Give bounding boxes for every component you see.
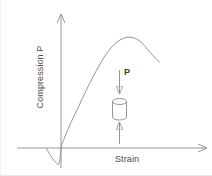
x-axis-label: Strain — [115, 154, 139, 164]
compression-stress-strain-figure: Compression P Strain P — [0, 0, 212, 176]
load-label-p: P — [124, 67, 130, 77]
y-axis-label: Compression P — [35, 22, 45, 132]
stress-strain-curve — [47, 37, 160, 164]
figure-canvas — [1, 0, 212, 176]
cylinder-specimen-top — [113, 99, 127, 105]
